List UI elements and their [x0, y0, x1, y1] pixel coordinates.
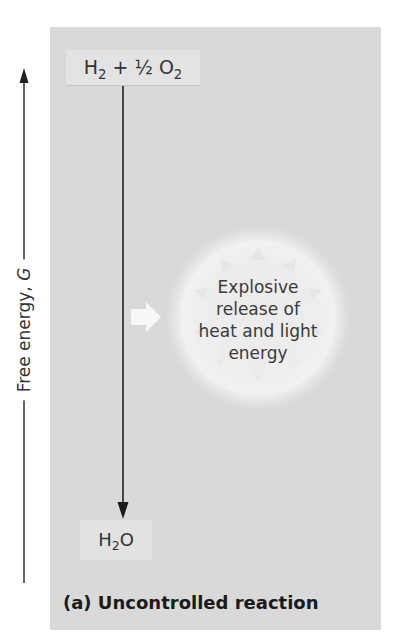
energy-release-line: energy: [168, 342, 348, 364]
reactant-o: O: [153, 56, 174, 78]
energy-release-label: Explosive release of heat and light ener…: [168, 276, 348, 364]
axis-label: Free energy, G: [15, 260, 33, 401]
product-label: H2O: [80, 520, 152, 560]
reactant-o-subscript: 2: [174, 67, 182, 82]
reactants-label: H2 + ½ O2: [66, 50, 200, 86]
reactant-coefficient: ½: [134, 56, 152, 78]
axis-label-text: Free energy,: [14, 286, 34, 392]
energy-release-line: heat and light: [168, 320, 348, 342]
energy-release-line: release of: [168, 298, 348, 320]
energy-release-line: Explosive: [168, 276, 348, 298]
axis-variable: G: [14, 268, 34, 281]
axis-arrowhead-icon: [20, 68, 29, 83]
product-h: H: [98, 529, 112, 550]
reactant-plus: +: [106, 56, 134, 78]
reactant-h: H: [84, 56, 98, 78]
product-o: O: [120, 529, 134, 550]
product-h-subscript: 2: [112, 538, 120, 553]
figure-caption: (a) Uncontrolled reaction: [63, 592, 319, 613]
